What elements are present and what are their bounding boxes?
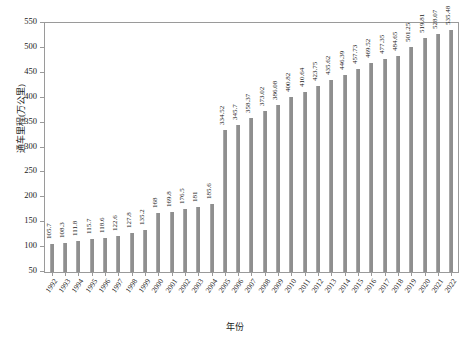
x-tick-label: 2018 xyxy=(389,277,405,294)
x-tick-mark xyxy=(411,273,412,276)
bar-slot: 477.35 xyxy=(378,23,391,272)
bar-slot: 535.48 xyxy=(445,23,458,272)
x-tick-mark xyxy=(331,273,332,276)
bar[interactable] xyxy=(143,230,147,272)
bar[interactable] xyxy=(316,86,320,272)
bar[interactable] xyxy=(276,105,280,272)
bar-value-label: 358.37 xyxy=(244,94,252,113)
x-tick-label: 1993 xyxy=(56,277,72,294)
x-tick-label: 2020 xyxy=(416,277,432,294)
bar-value-label: 435.62 xyxy=(324,56,332,75)
bar-chart: 通车里程(万公里) 501001502002503003504004505005… xyxy=(0,0,470,341)
bar[interactable] xyxy=(210,204,214,272)
bar-value-label: 185.6 xyxy=(205,184,213,200)
bar-value-label: 345.7 xyxy=(231,104,239,120)
y-tick-label: 100 xyxy=(24,240,37,250)
bar-slot: 400.82 xyxy=(285,23,298,272)
bar-slot: 358.37 xyxy=(245,23,258,272)
y-tick-label: 150 xyxy=(24,215,37,225)
x-tick-mark xyxy=(265,273,266,276)
bar[interactable] xyxy=(183,209,187,272)
bar[interactable] xyxy=(156,213,160,272)
bar[interactable] xyxy=(170,212,174,272)
bar[interactable] xyxy=(369,63,373,272)
bar-value-label: 410.64 xyxy=(298,68,306,87)
x-tick-label: 1996 xyxy=(96,277,112,294)
y-tick-label: 400 xyxy=(24,91,37,101)
bar-value-label: 135.2 xyxy=(138,209,146,225)
x-tick-mark xyxy=(212,273,213,276)
bar[interactable] xyxy=(436,34,440,272)
bar[interactable] xyxy=(223,130,227,272)
x-tick-label: 2017 xyxy=(376,277,392,294)
bar-value-label: 118.6 xyxy=(98,217,106,233)
bar[interactable] xyxy=(263,111,267,272)
bar-value-label: 519.81 xyxy=(418,14,426,33)
bar[interactable] xyxy=(63,243,67,272)
x-tick-mark xyxy=(132,273,133,276)
bar-value-label: 111.8 xyxy=(71,221,79,236)
bar-slot: 373.02 xyxy=(258,23,271,272)
y-tick-label: 350 xyxy=(24,116,37,126)
bar[interactable] xyxy=(356,69,360,272)
x-tick-mark xyxy=(371,273,372,276)
x-tick-label: 1997 xyxy=(110,277,126,294)
bar[interactable] xyxy=(449,30,453,272)
bar-value-label: 535.48 xyxy=(444,6,452,25)
bar[interactable] xyxy=(116,236,120,272)
x-tick-mark xyxy=(238,273,239,276)
bar-slot: 528.07 xyxy=(431,23,444,272)
bar-value-label: 446.39 xyxy=(338,50,346,69)
bar[interactable] xyxy=(50,244,54,272)
x-tick-label: 1999 xyxy=(136,277,152,294)
bar-slot: 127.8 xyxy=(125,23,138,272)
bar[interactable] xyxy=(236,125,240,272)
bar[interactable] xyxy=(289,97,293,272)
bar-value-label: 181 xyxy=(191,191,199,202)
bar[interactable] xyxy=(303,92,307,272)
bar-slot: 105.7 xyxy=(45,23,58,272)
bar-slot: 446.39 xyxy=(338,23,351,272)
bar[interactable] xyxy=(90,239,94,272)
x-tick-label: 1994 xyxy=(70,277,86,294)
bar-value-label: 423.75 xyxy=(311,62,319,81)
x-tick-mark xyxy=(225,273,226,276)
x-tick-label: 2006 xyxy=(230,277,246,294)
bar[interactable] xyxy=(343,75,347,272)
bar[interactable] xyxy=(396,56,400,272)
x-tick-mark xyxy=(278,273,279,276)
x-tick-mark xyxy=(291,273,292,276)
bar[interactable] xyxy=(423,38,427,272)
bar-slot: 122.6 xyxy=(112,23,125,272)
bar[interactable] xyxy=(329,80,333,272)
x-tick-mark xyxy=(78,273,79,276)
x-tick-label: 2002 xyxy=(176,277,192,294)
bar[interactable] xyxy=(196,207,200,272)
bar-slot: 111.8 xyxy=(72,23,85,272)
bar[interactable] xyxy=(76,241,80,272)
y-tick-label: 550 xyxy=(24,16,37,26)
bar-value-label: 386.08 xyxy=(271,80,279,99)
bar-slot: 457.73 xyxy=(351,23,364,272)
x-tick-label: 2008 xyxy=(256,277,272,294)
bar[interactable] xyxy=(409,47,413,272)
bar[interactable] xyxy=(249,118,253,272)
x-tick-mark xyxy=(251,273,252,276)
bar-value-label: 501.25 xyxy=(404,23,412,42)
bar-slot: 423.75 xyxy=(311,23,324,272)
y-tick-label: 500 xyxy=(24,41,37,51)
bar[interactable] xyxy=(383,59,387,272)
y-axis-ticks: 50100150200250300350400450500550 xyxy=(0,22,44,273)
x-tick-mark xyxy=(105,273,106,276)
x-tick-mark xyxy=(65,273,66,276)
bar-value-label: 108.3 xyxy=(58,222,66,238)
y-tick-label: 250 xyxy=(24,165,37,175)
x-tick-label: 2010 xyxy=(283,277,299,294)
y-tick-label: 200 xyxy=(24,190,37,200)
bar[interactable] xyxy=(130,233,134,272)
bar-value-label: 168 xyxy=(151,198,159,209)
bar[interactable] xyxy=(103,238,107,272)
x-tick-label: 2011 xyxy=(296,277,312,294)
bar-slot: 484.65 xyxy=(391,23,404,272)
x-tick-label: 2013 xyxy=(323,277,339,294)
